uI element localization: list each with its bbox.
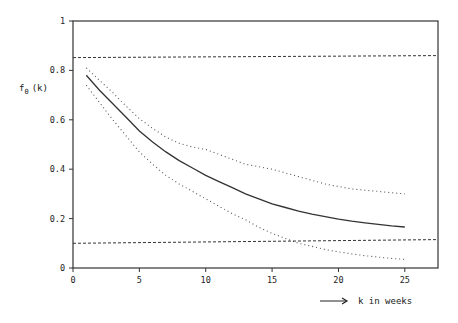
series-lower-limit <box>73 240 438 244</box>
series-upper-confidence-bound <box>86 68 405 194</box>
x-tick-label: 10 <box>201 275 211 285</box>
plot-frame <box>73 21 438 268</box>
y-axis-label: f0(k) <box>19 83 48 96</box>
y-tick-label: 0.2 <box>50 214 65 224</box>
plot-border <box>73 21 438 268</box>
y-label-arg: (k) <box>32 83 48 93</box>
x-tick-label: 20 <box>333 275 343 285</box>
x-tick-label: 25 <box>400 275 410 285</box>
x-tick-label: 15 <box>267 275 277 285</box>
y-tick-label: 0.6 <box>50 115 65 125</box>
y-tick-label: 0.8 <box>50 65 65 75</box>
chart: 051015202500.20.40.60.81 f0(k) k in week… <box>0 0 458 323</box>
y-tick-label: 0 <box>60 263 65 273</box>
y-label-sub: 0 <box>24 88 28 96</box>
series-lower-confidence-bound <box>86 85 405 259</box>
x-axis-label-group: k in weeks <box>320 296 412 306</box>
y-tick-label: 0.4 <box>50 164 65 174</box>
y-tick-label: 1 <box>60 16 65 26</box>
series-estimate <box>86 75 405 227</box>
x-tick-label: 0 <box>70 275 75 285</box>
x-axis-label: k in weeks <box>358 296 412 306</box>
series-upper-limit <box>73 56 438 58</box>
series-layer <box>73 56 438 260</box>
x-tick-label: 5 <box>137 275 142 285</box>
